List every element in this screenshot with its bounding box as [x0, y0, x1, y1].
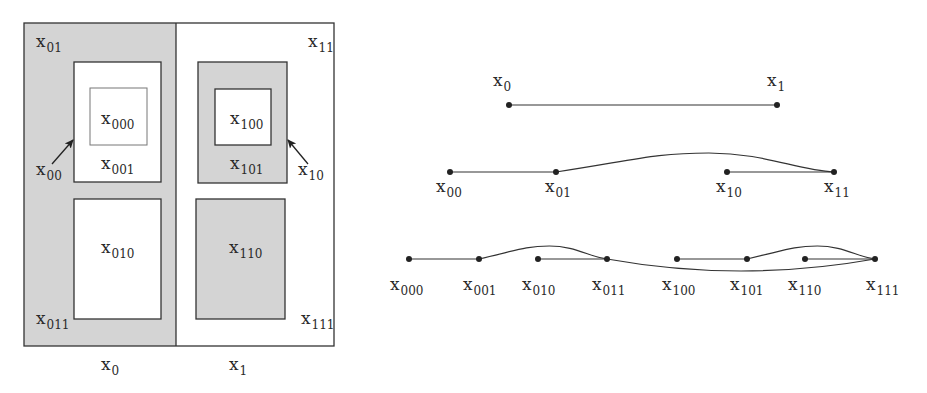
- node-label-x01: x01: [545, 176, 571, 200]
- node-x101: [744, 256, 750, 262]
- edge-x001-x011: [479, 246, 607, 259]
- label-x0: x0: [101, 354, 119, 378]
- node-x000: [406, 256, 412, 262]
- box-x100: [215, 89, 271, 145]
- node-label-x0: x0: [493, 70, 511, 94]
- edge-x01-x11: [556, 153, 834, 172]
- node-label-x110: x110: [788, 274, 822, 298]
- node-label-x1: x1: [767, 70, 785, 94]
- node-label-x101: x101: [730, 274, 764, 298]
- nested-partition-box: x01x11x000x001x100x101x00x10x010x110x011…: [24, 23, 335, 378]
- node-x010: [535, 256, 541, 262]
- node-x1: [774, 102, 780, 108]
- hierarchy-tree: x0x1x00x01x10x11x000x001x010x011x100x101…: [390, 70, 900, 298]
- node-label-x00: x00: [436, 176, 462, 200]
- node-label-x001: x001: [463, 274, 497, 298]
- node-x100: [674, 256, 680, 262]
- node-label-x11: x11: [824, 176, 850, 200]
- node-x0: [506, 102, 512, 108]
- node-label-x111: x111: [866, 274, 900, 298]
- node-label-x011: x011: [592, 274, 626, 298]
- node-label-x100: x100: [662, 274, 696, 298]
- label-x1: x1: [229, 354, 247, 378]
- node-x11: [831, 169, 837, 175]
- node-label-x010: x010: [522, 274, 556, 298]
- node-x110: [802, 256, 808, 262]
- node-x10: [724, 169, 730, 175]
- binary-partition-diagram: x01x11x000x001x100x101x00x10x010x110x011…: [0, 0, 927, 393]
- node-x00: [447, 169, 453, 175]
- edge-x011-x111: [607, 259, 875, 271]
- node-x111: [872, 256, 878, 262]
- node-label-x10: x10: [716, 176, 742, 200]
- node-x01: [553, 169, 559, 175]
- node-label-x000: x000: [390, 274, 424, 298]
- edge-x101-x111: [747, 246, 875, 259]
- node-x001: [476, 256, 482, 262]
- node-x011: [604, 256, 610, 262]
- box-x000: [90, 88, 147, 145]
